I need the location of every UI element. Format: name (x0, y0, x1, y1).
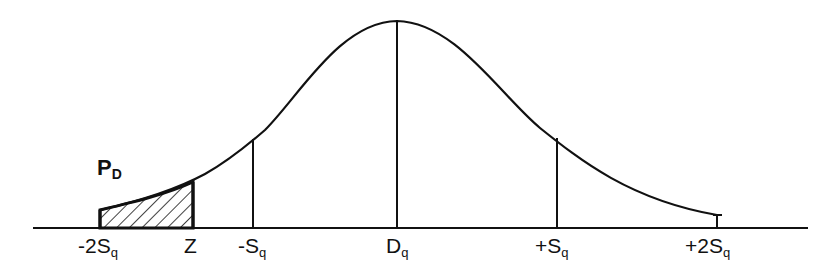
label-sub: q (259, 245, 266, 260)
label-main: D (386, 234, 401, 257)
label-z: Z (184, 234, 197, 258)
pd-label: PD (97, 155, 122, 182)
label-main: +S (535, 234, 561, 257)
label-minus-sq: -Sq (238, 234, 266, 260)
label-minus-2sq: -2Sq (78, 234, 118, 260)
label-plus-sq: +Sq (535, 234, 569, 260)
label-dq: Dq (386, 234, 408, 260)
pd-sub: D (112, 166, 122, 182)
label-main: +2S (685, 234, 723, 257)
shaded-probability-region (100, 182, 193, 228)
label-main: Z (184, 234, 197, 257)
label-main: -S (238, 234, 259, 257)
label-plus-2sq: +2Sq (685, 234, 730, 260)
label-sub: q (561, 245, 568, 260)
label-sub: q (111, 245, 118, 260)
label-sub: q (401, 245, 408, 260)
pd-main: P (97, 155, 112, 180)
label-sub: q (723, 245, 730, 260)
label-main: -2S (78, 234, 111, 257)
